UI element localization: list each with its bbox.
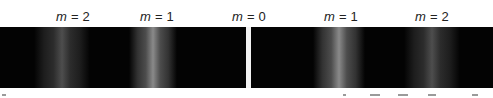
order-variable: m bbox=[56, 9, 67, 24]
fringe-m2-left bbox=[34, 27, 90, 88]
order-value: = 2 bbox=[67, 9, 90, 24]
clipped-caption-fragments bbox=[0, 92, 493, 98]
fringe-m1-left bbox=[129, 27, 177, 88]
order-variable: m bbox=[415, 9, 426, 24]
order-value: = 1 bbox=[151, 9, 174, 24]
order-label-center-m0: m = 0 bbox=[232, 9, 266, 24]
order-variable: m bbox=[140, 9, 151, 24]
order-value: = 2 bbox=[426, 9, 449, 24]
order-value: = 0 bbox=[243, 9, 266, 24]
fringe-m1-right bbox=[313, 27, 365, 88]
caption-fragment bbox=[2, 94, 6, 96]
fringe-m2-right bbox=[404, 27, 460, 88]
order-label-right-m1: m = 1 bbox=[324, 9, 358, 24]
fringe-pattern-band bbox=[0, 27, 493, 88]
caption-fragment bbox=[472, 94, 478, 96]
order-variable: m bbox=[232, 9, 243, 24]
order-label-left-m2: m = 2 bbox=[56, 9, 90, 24]
order-label-right-m2: m = 2 bbox=[415, 9, 449, 24]
central-maximum bbox=[246, 27, 251, 88]
caption-fragment bbox=[343, 94, 346, 96]
caption-fragment bbox=[398, 94, 408, 96]
order-value: = 1 bbox=[335, 9, 358, 24]
order-label-left-m1: m = 1 bbox=[140, 9, 174, 24]
caption-fragment bbox=[370, 94, 380, 96]
order-variable: m bbox=[324, 9, 335, 24]
caption-fragment bbox=[428, 94, 436, 96]
